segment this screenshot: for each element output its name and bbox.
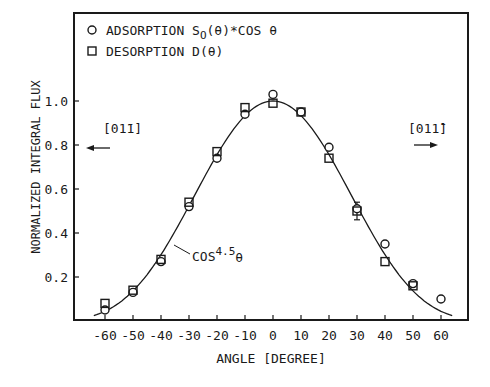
- legend-desorption: DESORPTION D(θ): [106, 44, 223, 59]
- arrow-left-icon: [86, 145, 110, 151]
- x-tick-label: 10: [293, 328, 309, 343]
- x-axis-label: ANGLE [DEGREE]: [216, 351, 326, 366]
- legend-adsorption: ADSORPTION SO(θ)*COS θ: [106, 23, 277, 42]
- y-tick-label: 1.0: [45, 94, 68, 109]
- x-tick-label: 30: [349, 328, 365, 343]
- x-tick-label: 20: [321, 328, 337, 343]
- curve-label: COS4.5θ: [192, 245, 243, 265]
- adsorption-point: [437, 295, 445, 303]
- x-tick-label: -50: [121, 328, 144, 343]
- adsorption-point: [325, 143, 333, 151]
- direction-left-label: [01̄1]: [103, 121, 142, 136]
- legend: ADSORPTION SO(θ)*COS θ DESORPTION D(θ): [88, 23, 277, 59]
- x-tick-label: 60: [433, 328, 449, 343]
- x-tick-label: 50: [405, 328, 421, 343]
- plot-frame: [74, 13, 468, 320]
- x-tick-label: -60: [93, 328, 116, 343]
- x-tick-label: -40: [149, 328, 172, 343]
- x-tick-label: 0: [269, 328, 277, 343]
- adsorption-point: [353, 205, 361, 213]
- flux-chart: -60-50-40-30-20-100102030405060 0.20.40.…: [0, 0, 490, 387]
- x-tick-label: -20: [205, 328, 228, 343]
- desorption-points: [101, 99, 417, 307]
- curve-label-leader: [174, 245, 190, 254]
- adsorption-point: [297, 108, 305, 116]
- x-tick-label: -10: [233, 328, 256, 343]
- x-tick-label: -30: [177, 328, 200, 343]
- adsorption-point: [129, 288, 137, 296]
- adsorption-point: [409, 280, 417, 288]
- arrow-right-icon: [414, 142, 438, 148]
- y-tick-label: 0.4: [45, 226, 69, 241]
- legend-square-marker: [88, 47, 96, 55]
- x-tick-label: 40: [377, 328, 393, 343]
- adsorption-points: [101, 90, 445, 314]
- cos-fit-curve: [94, 101, 452, 316]
- adsorption-point: [381, 240, 389, 248]
- adsorption-point: [269, 90, 277, 98]
- direction-right-label: [011̄]: [408, 121, 447, 136]
- adsorption-point: [157, 258, 165, 266]
- y-tick-label: 0.8: [45, 138, 68, 153]
- legend-circle-marker: [88, 26, 96, 34]
- y-tick-label: 0.2: [45, 270, 68, 285]
- y-axis-label: NORMALIZED INTEGRAL FLUX: [29, 80, 43, 254]
- y-tick-label: 0.6: [45, 182, 68, 197]
